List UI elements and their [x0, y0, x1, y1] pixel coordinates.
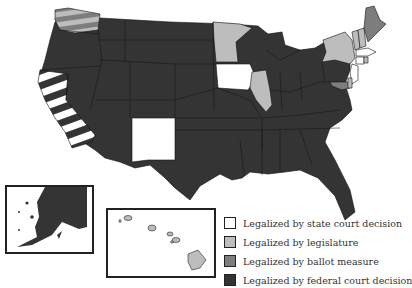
state-connecticut [356, 57, 364, 64]
state-hawaii [108, 210, 214, 276]
swatch-federal-court [224, 274, 236, 286]
state-massachusetts [356, 48, 376, 56]
state-delaware [348, 78, 352, 88]
alaska-inset [5, 185, 94, 254]
legend-item-state-court: Legalized by state court decision [224, 214, 398, 232]
legend-item-federal-court: Legalized by federal court decision [224, 271, 398, 288]
legend-label: Legalized by ballot measure [243, 256, 379, 267]
state-rhode-island [364, 57, 368, 63]
legend-label: Legalized by legislature [243, 237, 358, 248]
legend-label: Legalized by federal court decision [243, 275, 412, 286]
state-alaska [7, 187, 92, 252]
swatch-legislature [224, 236, 236, 248]
state-new-york [322, 32, 355, 64]
legend-label: Legalized by state court decision [243, 218, 402, 229]
hawaii-inset [106, 208, 216, 278]
swatch-state-court [224, 217, 236, 229]
state-maine [364, 6, 386, 42]
legend-item-ballot-measure: Legalized by ballot measure [224, 252, 398, 270]
swatch-ballot-measure [224, 255, 236, 267]
state-new-mexico [132, 118, 175, 162]
legend-item-legislature: Legalized by legislature [224, 233, 398, 251]
state-washington [55, 8, 100, 33]
map-legend: Legalized by state court decision Legali… [224, 214, 398, 288]
